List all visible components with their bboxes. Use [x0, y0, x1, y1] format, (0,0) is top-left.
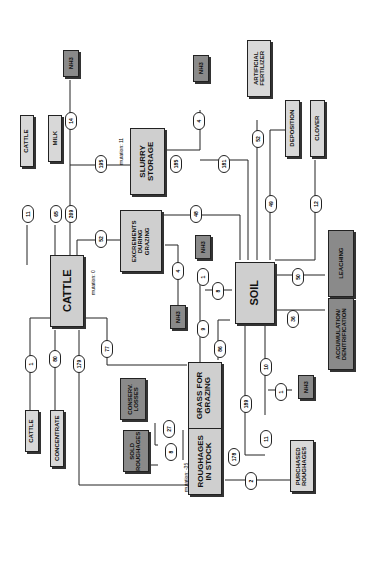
node-nh3: NH3 [193, 55, 209, 82]
node-concentrate: CONCENTRATE [50, 410, 64, 467]
node-purchased-roughages: PURCHASED ROUGHAGES [290, 440, 314, 492]
node-grass[interactable]: GRASS FOR GRAZING [188, 362, 222, 429]
node-nh3: NH3 [170, 305, 186, 329]
mutation-label: mutation: 11 [118, 138, 124, 165]
flow-value: 1 [197, 268, 209, 286]
flow-value: 1 [275, 383, 287, 401]
mutation-label: mutation: 0 [90, 270, 96, 295]
flow-value: 80 [49, 350, 61, 368]
flow-value: 4 [193, 112, 205, 130]
node-cattle-output: CATTLE [20, 115, 34, 167]
flow-value: 49 [265, 195, 277, 213]
flow-value: 189 [240, 395, 252, 413]
node-excrements[interactable]: EXCREMENTS DURING GRAZING [120, 210, 162, 272]
node-deposition: DEPOSITION [285, 100, 300, 157]
node-cattle[interactable]: CATTLE [50, 255, 84, 327]
flow-value: 11 [22, 205, 34, 223]
node-cattle-input: CATTLE [25, 410, 39, 452]
node-conserv-losses: CONSERV. LOSSES [120, 378, 146, 420]
node-milk: MILK [48, 115, 62, 162]
flow-value: 195 [95, 155, 107, 173]
diagram: CATTLE CONCENTRATE CATTLE CATTLE MILK NH… [0, 0, 378, 586]
flow-value: 52 [252, 130, 264, 148]
flow-value: 4 [172, 262, 184, 280]
flow-value: 178 [228, 448, 240, 466]
flow-value: 10 [260, 358, 272, 376]
flow-value: 11 [260, 430, 272, 448]
node-roughages[interactable]: ROUGHAGES IN STOCK [188, 428, 222, 495]
flow-value: 8 [165, 443, 177, 461]
mutation-label: mutation: -35 [183, 463, 189, 492]
flow-value: 1 [25, 355, 37, 373]
node-nh3: NH3 [195, 235, 211, 259]
flow-value: 48 [190, 205, 202, 223]
flow-value: 36 [287, 310, 299, 328]
node-slurry-storage[interactable]: SLURRY STORAGE [130, 128, 165, 195]
node-artificial-fertilizer: ARTIFICIAL FERTILIZER [247, 40, 271, 97]
node-accumulation: ACCUMULATION/ DENITRIFICATION [328, 298, 354, 370]
node-soil[interactable]: SOIL [235, 262, 275, 324]
flow-value: 185 [170, 155, 182, 173]
flow-value: 86 [214, 340, 226, 358]
flow-value: 14 [65, 112, 77, 130]
node-sold-roughages: SOLD ROUGHAGES [123, 430, 149, 472]
node-nh3: NH3 [298, 375, 314, 399]
node-nh3: NH3 [63, 50, 79, 77]
node-clover: CLOVER [310, 100, 325, 157]
flow-value: 50 [292, 268, 304, 286]
flow-value: 12 [310, 195, 322, 213]
flow-value: 2 [245, 472, 257, 490]
flow-value: 65 [50, 205, 62, 223]
flow-value: 209 [65, 205, 77, 223]
flow-value: 9 [197, 320, 209, 338]
flow-value: 181 [218, 155, 230, 173]
flow-value: 77 [101, 340, 113, 358]
flow-value: 52 [95, 230, 107, 248]
node-leaching: LEACHING [328, 230, 354, 297]
flow-value: 27 [163, 420, 175, 438]
flow-value: 8 [212, 282, 224, 300]
flow-value: 179 [73, 355, 85, 373]
